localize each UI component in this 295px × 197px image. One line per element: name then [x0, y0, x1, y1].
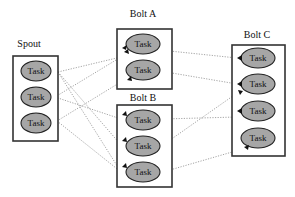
bolt-b-task-1: Task — [126, 136, 160, 156]
bolt-c-node: Bolt C Task Task Task Task — [232, 29, 285, 156]
edge-spout1-bolta0 — [55, 57, 121, 97]
bolt-c-task-0: Task — [241, 48, 275, 68]
bolt-b-node: Bolt B Task Task Task — [117, 92, 172, 187]
bolt-c-task-3: Task — [241, 128, 275, 148]
topology-diagram: Spout Task Task Task Bolt A Task Task — [0, 0, 295, 197]
edge-spout0-boltb1 — [58, 72, 121, 145]
bolt-b-title: Bolt B — [130, 92, 157, 103]
spout-task-1: Task — [21, 87, 51, 107]
bolt-a-title: Bolt A — [130, 8, 157, 19]
bolt-c-title: Bolt C — [244, 29, 271, 40]
bolt-a-task-0: Task — [126, 34, 160, 54]
spout-task-0: Task — [21, 61, 51, 81]
task-label: Task — [28, 118, 45, 128]
task-label: Task — [250, 133, 267, 143]
spout-node: Spout Task Task Task — [13, 38, 58, 141]
spout-task-2: Task — [21, 113, 51, 133]
bolt-c-task-2: Task — [241, 101, 275, 121]
bolt-b-task-0: Task — [126, 110, 160, 130]
edge-spout0-bolta0 — [58, 57, 121, 72]
task-label: Task — [135, 39, 152, 49]
task-label: Task — [250, 106, 267, 116]
task-label: Task — [250, 79, 267, 89]
task-label: Task — [135, 167, 152, 177]
bolt-a-node: Bolt A Task Task — [117, 8, 172, 89]
task-label: Task — [28, 66, 45, 76]
task-label: Task — [135, 65, 152, 75]
task-label: Task — [28, 92, 45, 102]
bolt-b-task-2: Task — [126, 162, 160, 182]
bolt-c-task-1: Task — [241, 74, 275, 94]
task-label: Task — [135, 115, 152, 125]
task-label: Task — [135, 141, 152, 151]
edge-spout0-boltb2 — [58, 72, 121, 172]
edge-spout2-boltb2 — [57, 121, 121, 172]
spout-title: Spout — [17, 38, 41, 49]
task-label: Task — [250, 53, 267, 63]
edge-boltb1-boltc1 — [163, 91, 240, 145]
edge-spout1-boltb0 — [55, 97, 121, 119]
